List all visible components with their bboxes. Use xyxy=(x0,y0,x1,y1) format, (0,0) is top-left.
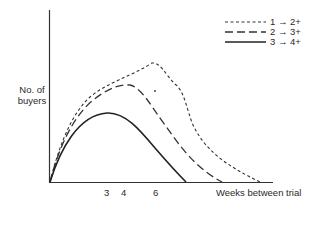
scan-artifact-dot xyxy=(154,90,156,92)
x-tick-6: 6 xyxy=(153,187,158,198)
x-axis-label: Weeks between trial xyxy=(216,187,301,198)
series-2-to-3plus xyxy=(50,85,222,182)
legend-label-3: 3 → 4+ xyxy=(270,36,301,47)
x-tick-4: 4 xyxy=(121,187,126,198)
series-1-to-2plus xyxy=(50,63,260,182)
y-axis-label: No. of buyers xyxy=(14,84,50,106)
y-axis-label-line2: buyers xyxy=(14,95,50,106)
x-tick-3: 3 xyxy=(104,187,109,198)
y-axis-label-line1: No. of xyxy=(14,84,50,95)
